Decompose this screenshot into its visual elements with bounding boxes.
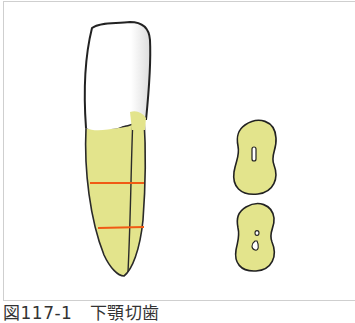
cross-section-lower bbox=[236, 204, 275, 271]
section-line-lower bbox=[98, 227, 144, 228]
tooth-root bbox=[86, 118, 146, 276]
tooth-crown bbox=[85, 22, 151, 130]
figure-caption: 図117-1 下顎切歯 bbox=[3, 303, 160, 323]
cross-section-upper bbox=[234, 120, 276, 194]
